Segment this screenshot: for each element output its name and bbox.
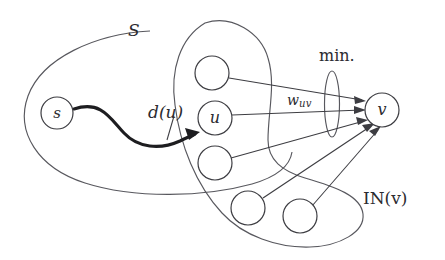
node-n5[interactable] bbox=[283, 199, 317, 233]
edge-n4-v bbox=[263, 126, 371, 198]
arrowhead-n3-v bbox=[356, 117, 368, 125]
edge-u-v bbox=[232, 110, 362, 115]
label-weight-uv-base: w bbox=[287, 92, 299, 108]
label-in-v: IN(v) bbox=[363, 190, 407, 207]
label-min: min. bbox=[319, 48, 355, 64]
label-weight-uv-subscript: uv bbox=[299, 98, 312, 109]
node-label-s: s bbox=[53, 106, 61, 121]
figure-canvas: s u v S min. d(u) wuv IN(v) bbox=[0, 0, 445, 260]
node-n1[interactable] bbox=[195, 56, 229, 90]
label-weight-uv: wuv bbox=[287, 93, 312, 107]
node-n4[interactable] bbox=[231, 191, 265, 225]
arrowhead-u-v bbox=[354, 106, 366, 114]
node-label-v: v bbox=[377, 102, 386, 118]
edge-n3-v bbox=[231, 121, 364, 158]
region-min-ellipse bbox=[325, 71, 340, 137]
diagram-svg bbox=[0, 0, 445, 260]
arrowhead-n1-v bbox=[354, 96, 366, 104]
label-distance-u: d(u) bbox=[148, 104, 183, 121]
label-set-s: S bbox=[128, 22, 140, 39]
node-n3[interactable] bbox=[198, 146, 232, 180]
node-label-u: u bbox=[210, 110, 220, 126]
